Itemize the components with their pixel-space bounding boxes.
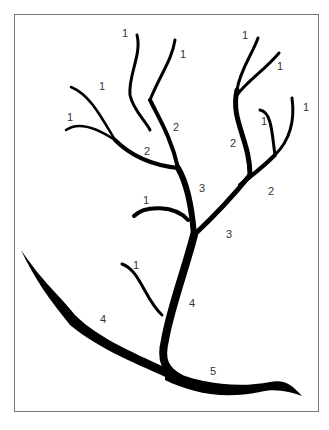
stream-order-1	[71, 87, 115, 140]
order-label: 4	[100, 314, 106, 325]
order-label: 2	[173, 122, 179, 133]
stream-order-1	[237, 53, 279, 95]
order-label: 1	[143, 195, 149, 206]
order-label: 3	[199, 183, 205, 194]
order-label: 2	[268, 186, 274, 197]
order-label: 2	[230, 138, 236, 149]
stream-order-1	[122, 264, 162, 315]
stream-order-1	[150, 40, 175, 100]
order-label: 5	[210, 366, 216, 377]
stream-order-5	[165, 368, 302, 396]
order-label: 4	[189, 298, 195, 309]
order-label: 1	[303, 102, 309, 113]
stream-order-3	[178, 168, 194, 235]
order-label: 3	[226, 229, 232, 240]
stream-order-1	[134, 208, 188, 220]
order-label: 1	[242, 30, 248, 41]
order-label: 1	[67, 112, 73, 123]
stream-order-2	[150, 100, 178, 168]
stream-order-1	[130, 35, 150, 130]
stream-order-4	[21, 250, 172, 380]
order-label: 1	[99, 81, 105, 92]
stream-order-2	[236, 90, 250, 175]
order-label: 1	[180, 49, 186, 60]
order-label: 1	[277, 61, 283, 72]
order-label: 1	[261, 116, 267, 127]
stream-order-1	[275, 98, 293, 155]
order-label: 1	[122, 28, 128, 39]
order-label: 2	[144, 146, 150, 157]
order-label: 1	[133, 260, 139, 271]
